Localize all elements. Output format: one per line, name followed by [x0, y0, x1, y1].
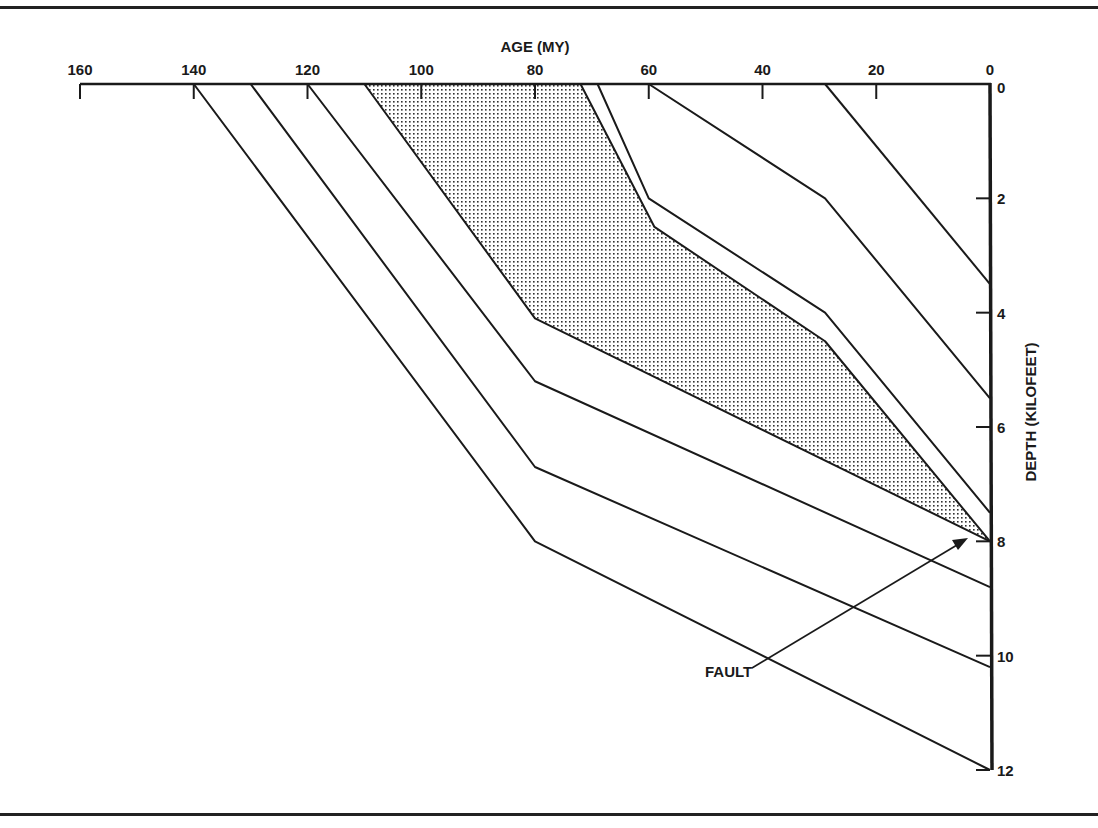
y-tick-label: 10: [997, 648, 1014, 665]
x-tick-label: 140: [181, 61, 206, 78]
y-tick-label: 8: [997, 533, 1005, 550]
x-axis-title: AGE (MY): [500, 38, 569, 55]
fault-arrow-head-icon: [952, 538, 968, 550]
y-axis-title: DEPTH (KILOFEET): [1022, 342, 1039, 481]
y-axis-line: [990, 83, 992, 770]
x-tick-label: 80: [527, 61, 544, 78]
x-tick-label: 60: [640, 61, 657, 78]
x-tick-label: 0: [986, 61, 994, 78]
y-tick-label: 12: [997, 762, 1014, 779]
x-tick-label: 100: [409, 61, 434, 78]
fault-arrow-line: [752, 542, 962, 668]
x-tick-label: 120: [295, 61, 320, 78]
fault-label: FAULT: [705, 663, 752, 680]
y-tick-label: 0: [997, 79, 1005, 96]
y-tick-label: 4: [997, 305, 1006, 322]
shaded-zone: [364, 84, 990, 541]
x-tick-label: 20: [868, 61, 885, 78]
x-tick-label: 160: [67, 61, 92, 78]
subsidence-chart: 160140120100806040200024681012 AGE (MY) …: [0, 0, 1098, 828]
y-tick-label: 2: [997, 190, 1005, 207]
line-horizon-8: [825, 84, 990, 284]
x-tick-label: 40: [754, 61, 771, 78]
y-tick-label: 6: [997, 419, 1005, 436]
stippled-zone-fill: [364, 84, 990, 541]
